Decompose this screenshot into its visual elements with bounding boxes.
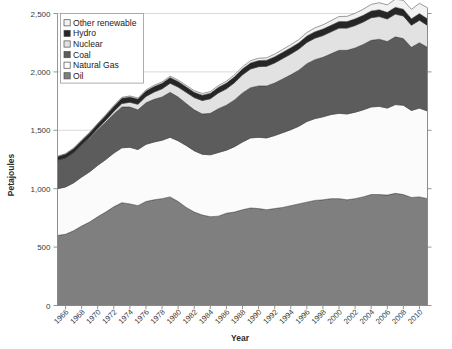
chart-canvas: 05001,0001,5002,0002,500 196619681970197…	[0, 0, 452, 349]
y-axis-title: Petajoules	[6, 153, 16, 196]
y-tick-label-1500: 1,500	[30, 126, 51, 135]
y-tick-label-2000: 2,000	[30, 68, 51, 77]
legend-swatch-coal	[64, 52, 70, 58]
legend-label-nuclear: Nuclear	[73, 39, 103, 49]
stacked-area-chart: 05001,0001,5002,0002,500 196619681970197…	[0, 0, 452, 349]
x-axis-title: Year	[231, 333, 250, 343]
y-tick-label-1000: 1,000	[30, 185, 51, 194]
legend[interactable]: Other renewableHydroNuclearCoalNatural G…	[61, 14, 144, 84]
legend-swatch-oil	[64, 73, 70, 79]
legend-label-other-renewable: Other renewable	[73, 18, 137, 28]
y-tick-label-500: 500	[37, 243, 51, 252]
legend-label-hydro: Hydro	[73, 28, 96, 38]
legend-swatch-other-renewable	[64, 20, 70, 26]
legend-label-coal: Coal	[73, 50, 91, 60]
y-tick-label-0: 0	[46, 302, 51, 311]
legend-swatch-hydro	[64, 30, 70, 36]
legend-swatch-natural-gas	[64, 62, 70, 68]
legend-swatch-nuclear	[64, 41, 70, 47]
legend-label-oil: Oil	[73, 71, 84, 81]
y-tick-label-2500: 2,500	[30, 10, 51, 19]
legend-label-natural-gas: Natural Gas	[73, 60, 119, 70]
area-series-oil	[58, 193, 428, 305]
